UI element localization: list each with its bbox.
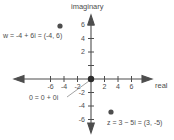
annotation-w: w = -4 + 6i = (-4, 6): [3, 32, 62, 40]
point-z: [108, 109, 113, 114]
x-tick-label-4: 4: [111, 83, 125, 91]
y-tick-label-neg6: -6: [73, 116, 85, 124]
imaginary-axis-label: imaginary: [71, 3, 104, 11]
imaginary-axis: [88, 15, 95, 133]
x-tick-label-neg4: -4: [57, 83, 71, 91]
real-axis-label: real: [155, 82, 168, 90]
x-tick-label-6: 6: [125, 83, 139, 91]
x-tick-label-neg6: -6: [44, 83, 58, 91]
y-tick-label-neg4: -4: [73, 102, 85, 110]
y-tick-label-4: 4: [73, 35, 85, 43]
annotation-z: z = 3 − 5i = (3, -5): [107, 119, 162, 127]
x-tick-label-2: 2: [98, 83, 112, 91]
complex-plane-figure: imaginary real -6 -4 -2 2 4 6 6 4 2 -2 -…: [0, 0, 174, 140]
annotation-origin: 0 = 0 + 0i: [29, 94, 58, 102]
y-tick-label-2: 2: [73, 48, 85, 56]
y-tick-label-6: 6: [73, 21, 85, 29]
point-w: [57, 23, 62, 28]
point-origin: [88, 76, 94, 82]
y-tick-label-neg2: -2: [73, 89, 85, 97]
